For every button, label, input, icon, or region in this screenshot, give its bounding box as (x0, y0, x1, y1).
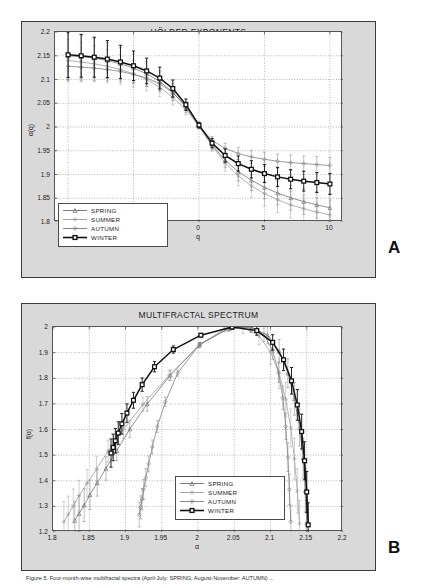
x-axis-label: q (196, 233, 200, 240)
triangle-marker (62, 206, 88, 215)
triangle-marker (179, 479, 205, 488)
x-tick-label: 5 (262, 224, 266, 231)
panel-a-letter: A (388, 238, 400, 258)
y-tick-label: 1.2 (39, 528, 48, 535)
x-tick-label: 1.9 (120, 534, 129, 541)
x-tick-label: 2.15 (299, 534, 312, 541)
legend-label: WINTER (205, 507, 234, 514)
x-tick-label: 2.2 (337, 534, 346, 541)
figure-page: HÖLDER EXPONENTS A -10-505101.81.851.91.… (0, 0, 427, 588)
chart-legend: SPRINGSUMMERAUTUMNWINTER (175, 476, 285, 520)
y-tick-label: 2.1 (41, 75, 50, 82)
legend-label: SUMMER (88, 216, 120, 223)
legend-label: AUTUMN (88, 225, 119, 232)
x-tick-label: 0 (196, 224, 200, 231)
y-tick-label: 1.85 (37, 194, 50, 201)
x-tick-label: 2.05 (227, 534, 240, 541)
chart-a-plot-area (54, 31, 342, 221)
y-tick-label: 1.6 (39, 425, 48, 432)
y-tick-label: 2 (46, 123, 50, 130)
x-axis-label: α (195, 543, 199, 550)
y-tick-label: 1.9 (39, 348, 48, 355)
legend-label: SPRING (88, 207, 117, 214)
y-tick-label: 2.05 (37, 99, 50, 106)
legend-item-summer: SUMMER (179, 488, 281, 497)
legend-item-winter: WINTER (179, 506, 281, 515)
y-tick-label: 2.15 (37, 51, 50, 58)
star-marker (179, 488, 205, 497)
x-tick-label: 2.1 (265, 534, 274, 541)
diamond-marker (179, 497, 205, 506)
chart-b-title: MULTIFRACTAL SPECTRUM (22, 310, 375, 320)
legend-label: AUTUMN (205, 498, 236, 505)
y-tick-label: 1.7 (39, 399, 48, 406)
legend-label: SPRING (205, 480, 234, 487)
panel-b-letter: B (388, 538, 400, 558)
legend-item-spring: SPRING (179, 479, 281, 488)
x-tick-label: 10 (325, 224, 332, 231)
star-marker (62, 215, 88, 224)
y-tick-label: 1.8 (41, 218, 50, 225)
figure-caption: Figure 5. Four-month-wise multifractal s… (26, 574, 406, 586)
legend-item-summer: SUMMER (62, 215, 164, 224)
y-tick-label: 1.5 (39, 451, 48, 458)
y-tick-label: 2.2 (41, 28, 50, 35)
legend-item-autumn: AUTUMN (179, 497, 281, 506)
x-tick-label: 1.95 (154, 534, 167, 541)
y-tick-label: 1.8 (39, 374, 48, 381)
y-axis-label: α(q) (27, 124, 34, 136)
legend-label: SUMMER (205, 489, 237, 496)
x-tick-label: 2 (195, 534, 199, 541)
square-marker (62, 233, 88, 242)
square-marker (179, 506, 205, 515)
x-tick-label: 1.85 (82, 534, 95, 541)
legend-label: WINTER (88, 234, 117, 241)
y-tick-label: 2 (44, 323, 48, 330)
chart-legend: SPRINGSUMMERAUTUMNWINTER (58, 203, 168, 247)
x-tick-label: 1.8 (47, 534, 56, 541)
y-axis-label: f(α) (25, 428, 32, 438)
legend-item-winter: WINTER (62, 233, 164, 242)
y-tick-label: 1.9 (41, 170, 50, 177)
legend-item-spring: SPRING (62, 206, 164, 215)
y-tick-label: 1.4 (39, 476, 48, 483)
diamond-marker (62, 224, 88, 233)
y-tick-label: 1.3 (39, 502, 48, 509)
y-tick-label: 1.95 (37, 146, 50, 153)
legend-item-autumn: AUTUMN (62, 224, 164, 233)
